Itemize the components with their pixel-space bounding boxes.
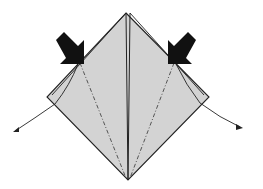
right-unfold-arrow (200, 103, 240, 127)
right-push-arrow-icon (168, 32, 196, 64)
left-unfold-arrow (15, 104, 55, 131)
left-push-arrow-icon (56, 32, 84, 64)
origami-diagram (0, 0, 263, 189)
right-arrowhead-icon (236, 124, 243, 130)
left-arrowhead-icon (13, 127, 19, 132)
